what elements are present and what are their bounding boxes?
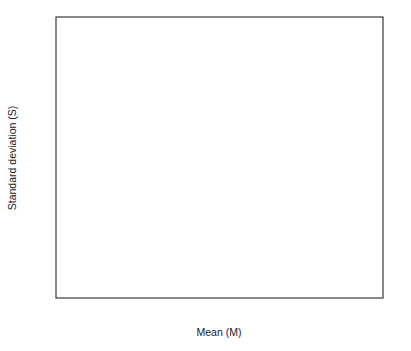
scatter-plot: Mean (M) Standard deviation (S) xyxy=(0,0,411,351)
x-axis-title: Mean (M) xyxy=(197,326,242,338)
y-axis-title: Standard deviation (S) xyxy=(6,106,18,210)
plot-frame xyxy=(56,17,383,298)
chart-container: Mean (M) Standard deviation (S) xyxy=(0,0,411,351)
